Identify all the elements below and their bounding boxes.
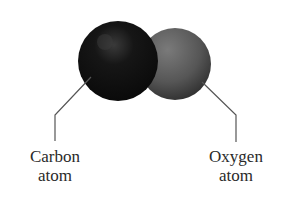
carbon-label-line2: atom bbox=[15, 166, 95, 185]
carbon-atom-highlight bbox=[97, 34, 113, 50]
oxygen-label-line2: atom bbox=[196, 166, 276, 185]
oxygen-atom-label: Oxygen atom bbox=[196, 147, 276, 185]
oxygen-leader-line bbox=[202, 82, 236, 142]
carbon-atom bbox=[78, 21, 158, 101]
oxygen-label-line1: Oxygen bbox=[196, 147, 276, 166]
carbon-leader-line bbox=[55, 77, 91, 141]
carbon-label-line1: Carbon bbox=[15, 147, 95, 166]
carbon-atom-label: Carbon atom bbox=[15, 147, 95, 185]
